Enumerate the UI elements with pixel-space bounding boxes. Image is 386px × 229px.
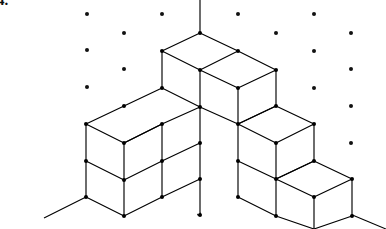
vertex-dot: [236, 159, 240, 163]
vertex-dot: [274, 177, 278, 181]
grid-dot: [160, 12, 164, 16]
grid-dot: [85, 12, 89, 16]
figure-number-label: 4.: [0, 0, 8, 8]
vertex-dot: [312, 122, 316, 126]
vertex-dot: [312, 195, 316, 199]
vertex-dot: [198, 31, 202, 35]
vertex-dot: [236, 49, 240, 53]
grid-dot: [122, 67, 126, 71]
vertex-dot: [160, 195, 164, 199]
vertex-dot: [198, 141, 202, 145]
isometric-cube-diagram: [0, 0, 386, 229]
grid-dot: [349, 31, 353, 35]
vertex-dot: [84, 122, 88, 126]
vertex-dot: [198, 105, 202, 109]
vertex-dot: [236, 122, 240, 126]
grid-dot: [349, 141, 353, 145]
grid-dot: [274, 31, 278, 35]
grid-dot: [349, 104, 353, 108]
vertex-dot: [236, 86, 240, 90]
vertex-dot: [160, 49, 164, 53]
vertex-dot: [122, 178, 126, 182]
grid-dot: [312, 49, 316, 53]
isometric-figure-container: 4.: [0, 0, 386, 229]
vertex-dot: [312, 159, 316, 163]
vertex-dot: [274, 104, 278, 108]
vertex-dot: [122, 104, 126, 108]
vertex-dot: [122, 141, 126, 145]
vertex-dot: [84, 195, 88, 199]
vertex-dot: [198, 177, 202, 181]
vertex-dot: [198, 213, 202, 217]
vertex-dot: [236, 195, 240, 199]
vertex-dot: [160, 122, 164, 126]
grid-dot: [122, 31, 126, 35]
vertex-dot: [84, 159, 88, 163]
vertex-dot: [274, 141, 278, 145]
grid-dot: [85, 48, 89, 52]
grid-dot: [85, 85, 89, 89]
grid-dot: [236, 12, 240, 16]
grid-dot: [312, 12, 316, 16]
vertex-dot: [350, 177, 354, 181]
vertex-dot: [160, 159, 164, 163]
grid-dot: [312, 86, 316, 90]
vertex-dot: [198, 68, 202, 72]
vertex-dot: [274, 68, 278, 72]
vertex-dot: [274, 214, 278, 218]
vertex-dot: [160, 86, 164, 90]
vertex-dot: [350, 214, 354, 218]
grid-dot: [349, 67, 353, 71]
vertex-dot: [122, 214, 126, 218]
